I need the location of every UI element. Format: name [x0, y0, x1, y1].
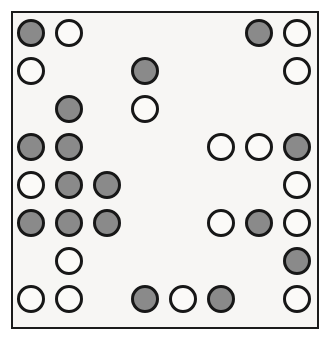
- grid-cell-empty: [207, 57, 235, 85]
- grid-cell-empty: [207, 171, 235, 199]
- grid-cell-filled: [245, 209, 273, 237]
- grid-cell-open: [55, 247, 83, 275]
- grid-cell-filled: [93, 171, 121, 199]
- grid-cell-empty: [169, 57, 197, 85]
- grid-cell-empty: [169, 19, 197, 47]
- grid-cell-filled: [17, 19, 45, 47]
- grid-cell-open: [207, 209, 235, 237]
- grid-cell-open: [169, 285, 197, 313]
- circle-grid: [13, 13, 317, 327]
- grid-cell-open: [55, 19, 83, 47]
- grid-cell-empty: [131, 19, 159, 47]
- grid-cell-empty: [245, 171, 273, 199]
- grid-cell-empty: [245, 247, 273, 275]
- grid-cell-empty: [131, 209, 159, 237]
- grid-cell-open: [131, 95, 159, 123]
- grid-cell-empty: [131, 247, 159, 275]
- grid-cell-empty: [93, 247, 121, 275]
- grid-cell-open: [207, 133, 235, 161]
- grid-cell-empty: [245, 95, 273, 123]
- grid-cell-filled: [131, 57, 159, 85]
- grid-cell-empty: [93, 95, 121, 123]
- grid-cell-open: [17, 171, 45, 199]
- grid-cell-filled: [93, 209, 121, 237]
- grid-cell-empty: [169, 247, 197, 275]
- grid-cell-open: [245, 133, 273, 161]
- grid-cell-filled: [55, 133, 83, 161]
- grid-cell-empty: [131, 171, 159, 199]
- grid-cell-open: [283, 285, 311, 313]
- grid-cell-open: [283, 57, 311, 85]
- grid-cell-open: [283, 19, 311, 47]
- grid-cell-empty: [245, 285, 273, 313]
- grid-cell-filled: [283, 133, 311, 161]
- grid-cell-empty: [283, 95, 311, 123]
- grid-cell-filled: [283, 247, 311, 275]
- grid-cell-empty: [245, 57, 273, 85]
- grid-cell-open: [17, 285, 45, 313]
- grid-cell-filled: [131, 285, 159, 313]
- grid-cell-empty: [93, 57, 121, 85]
- grid-frame: [11, 11, 319, 329]
- grid-cell-filled: [55, 209, 83, 237]
- grid-cell-empty: [169, 209, 197, 237]
- grid-cell-open: [283, 209, 311, 237]
- grid-cell-empty: [169, 95, 197, 123]
- grid-cell-filled: [207, 285, 235, 313]
- grid-cell-empty: [17, 95, 45, 123]
- grid-cell-empty: [17, 247, 45, 275]
- grid-cell-empty: [169, 171, 197, 199]
- grid-cell-empty: [93, 19, 121, 47]
- grid-cell-open: [17, 57, 45, 85]
- grid-cell-open: [55, 285, 83, 313]
- grid-cell-empty: [207, 95, 235, 123]
- grid-cell-empty: [207, 247, 235, 275]
- grid-cell-empty: [55, 57, 83, 85]
- grid-cell-open: [283, 171, 311, 199]
- grid-cell-filled: [245, 19, 273, 47]
- grid-cell-filled: [17, 133, 45, 161]
- grid-cell-empty: [169, 133, 197, 161]
- screenshot-canvas: [0, 0, 329, 346]
- grid-cell-empty: [93, 285, 121, 313]
- grid-cell-empty: [131, 133, 159, 161]
- grid-cell-empty: [93, 133, 121, 161]
- grid-cell-filled: [17, 209, 45, 237]
- grid-cell-filled: [55, 171, 83, 199]
- grid-cell-filled: [55, 95, 83, 123]
- grid-cell-empty: [207, 19, 235, 47]
